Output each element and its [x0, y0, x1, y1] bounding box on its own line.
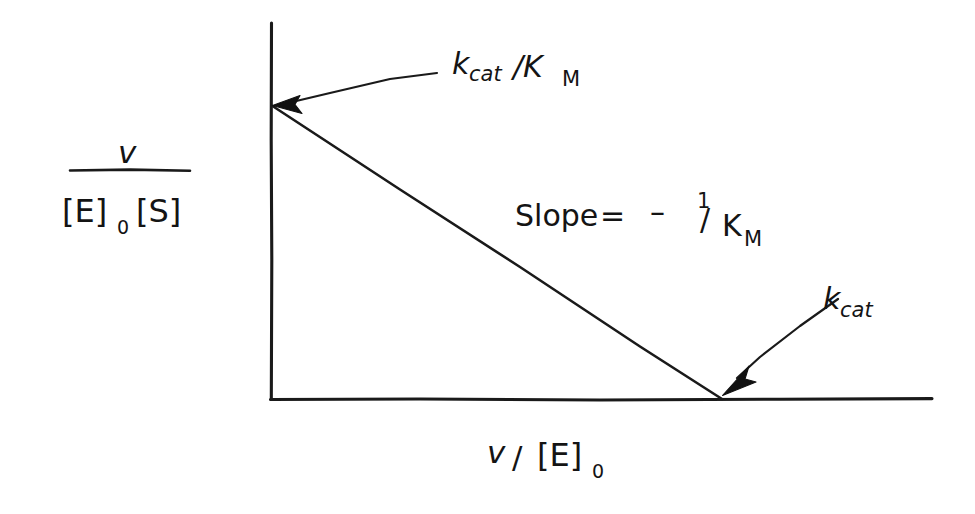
y-axis-label-fraction-bar — [70, 170, 190, 171]
slope-label-minus: – — [650, 194, 665, 229]
y-axis-label-denominator-s: [S] — [136, 192, 181, 230]
y-axis-label-denominator-zero: 0 — [117, 216, 129, 238]
x-intercept-arrowhead-icon — [723, 366, 757, 396]
slope-label-slash: / — [700, 202, 711, 237]
y-intercept-label-m-sub: M — [562, 67, 580, 91]
slope-label-denominator: K — [722, 208, 743, 243]
x-intercept-annotation: k cat — [723, 281, 874, 396]
slope-label-denominator-sub: M — [744, 227, 762, 251]
x-axis-label: v / [E] 0 — [487, 434, 604, 482]
y-axis-line — [271, 23, 272, 400]
y-intercept-annotation: k cat /K M — [273, 46, 581, 114]
y-intercept-label-cat: cat — [469, 62, 502, 86]
x-axis-line — [271, 399, 933, 400]
x-axis-label-zero: 0 — [592, 460, 604, 482]
slope-label-equals: = — [600, 198, 625, 233]
y-axis-label-numerator: v — [118, 134, 137, 170]
slope-label-prefix: Slope — [515, 198, 598, 233]
y-axis-label-denominator-e: [E] — [62, 192, 107, 230]
slope-annotation: Slope = – 1 / K M — [515, 189, 762, 251]
x-axis-label-e-bracket: [E] — [537, 436, 582, 474]
plot-canvas: k cat /K M k cat Slope = – 1 / K M v [E] — [0, 0, 975, 514]
x-axis-label-slash: / — [512, 439, 523, 475]
eadie-hofstee-line — [273, 106, 723, 399]
hand-drawn-plot-figure: k cat /K M k cat Slope = – 1 / K M v [E] — [0, 0, 975, 514]
y-intercept-arrowhead-icon — [273, 96, 303, 114]
x-intercept-label-cat: cat — [840, 298, 873, 322]
y-intercept-leader-line — [292, 73, 437, 102]
data-line-group — [273, 106, 723, 399]
x-axis-label-v: v — [487, 434, 506, 470]
y-axis-label: v [E] 0 [S] — [62, 134, 190, 238]
y-intercept-label-km: /K — [510, 49, 545, 84]
